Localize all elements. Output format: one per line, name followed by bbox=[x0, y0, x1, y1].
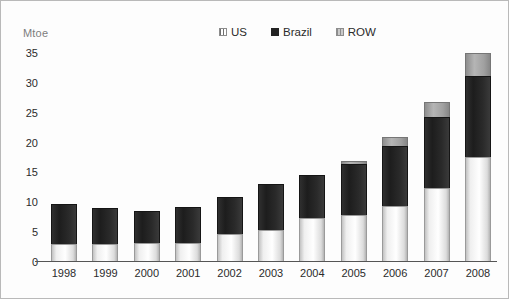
x-axis-baseline bbox=[35, 261, 497, 262]
y-tick-label: 0 bbox=[32, 256, 38, 268]
bar-segment-brazil bbox=[465, 76, 491, 156]
x-tick-label: 2005 bbox=[341, 267, 367, 279]
y-tick-label: 35 bbox=[26, 47, 38, 59]
legend-label-row: ROW bbox=[348, 26, 376, 38]
bar-group[interactable] bbox=[299, 53, 325, 261]
bar-segment-us bbox=[258, 230, 284, 261]
bar-segment-us bbox=[217, 234, 243, 261]
x-tick-label: 2002 bbox=[217, 267, 243, 279]
x-tick-label: 2006 bbox=[382, 267, 408, 279]
bar-segment-us bbox=[341, 215, 367, 261]
x-tick-label: 2004 bbox=[299, 267, 325, 279]
bar-segment-row bbox=[382, 137, 408, 146]
bar-segment-brazil bbox=[51, 204, 77, 244]
bar-segment-us bbox=[382, 206, 408, 261]
bar-segment-brazil bbox=[424, 117, 450, 188]
y-tick-label: 25 bbox=[26, 107, 38, 119]
bar-segment-us bbox=[465, 157, 491, 261]
y-tick-label: 30 bbox=[26, 77, 38, 89]
bar-segment-brazil bbox=[217, 197, 243, 234]
chart-legend: US Brazil ROW bbox=[219, 26, 376, 38]
bar-group[interactable] bbox=[465, 53, 491, 261]
bar-group[interactable] bbox=[217, 53, 243, 261]
bar-group[interactable] bbox=[341, 53, 367, 261]
chart-figure: Mtoe US Brazil ROW 35302520151050 199819… bbox=[0, 0, 509, 299]
us-hatch-swatch bbox=[219, 28, 227, 36]
y-tick-label: 20 bbox=[26, 137, 38, 149]
bar-group[interactable] bbox=[134, 53, 160, 261]
bar-group[interactable] bbox=[51, 53, 77, 261]
bar-segment-us bbox=[424, 188, 450, 261]
y-tick-label: 10 bbox=[26, 196, 38, 208]
bar-group[interactable] bbox=[424, 53, 450, 261]
legend-item-brazil[interactable]: Brazil bbox=[271, 26, 312, 38]
bar-series-container bbox=[45, 53, 497, 261]
bar-segment-us bbox=[92, 244, 118, 261]
brazil-solid-swatch bbox=[271, 28, 279, 36]
legend-item-row[interactable]: ROW bbox=[336, 26, 376, 38]
legend-label-brazil: Brazil bbox=[283, 26, 312, 38]
legend-label-us: US bbox=[231, 26, 247, 38]
bar-segment-row bbox=[465, 53, 491, 76]
bar-segment-brazil bbox=[341, 164, 367, 215]
bar-segment-us bbox=[51, 244, 77, 261]
bar-segment-brazil bbox=[299, 175, 325, 217]
legend-item-us[interactable]: US bbox=[219, 26, 247, 38]
x-tick-label: 2003 bbox=[258, 267, 284, 279]
row-gray-swatch bbox=[336, 28, 344, 36]
bar-segment-us bbox=[299, 218, 325, 261]
y-tick-label: 15 bbox=[26, 166, 38, 178]
x-tick-label: 1998 bbox=[51, 267, 77, 279]
bar-segment-brazil bbox=[175, 207, 201, 243]
bar-segment-brazil bbox=[92, 208, 118, 244]
plot-area: 35302520151050 bbox=[45, 53, 497, 262]
bar-group[interactable] bbox=[92, 53, 118, 261]
x-axis-ticks: 1998199920002001200220032004200520062007… bbox=[45, 267, 497, 279]
x-tick-label: 2001 bbox=[175, 267, 201, 279]
bar-segment-brazil bbox=[134, 211, 160, 242]
x-tick-label: 2008 bbox=[465, 267, 491, 279]
bar-group[interactable] bbox=[175, 53, 201, 261]
bar-segment-us bbox=[134, 243, 160, 261]
bar-segment-us bbox=[175, 243, 201, 261]
bar-segment-row bbox=[424, 102, 450, 116]
bar-segment-brazil bbox=[382, 146, 408, 205]
y-axis-unit-label: Mtoe bbox=[23, 27, 48, 39]
x-tick-label: 2007 bbox=[424, 267, 450, 279]
x-tick-label: 2000 bbox=[134, 267, 160, 279]
y-tick-label: 5 bbox=[32, 226, 38, 238]
x-tick-label: 1999 bbox=[92, 267, 118, 279]
bar-group[interactable] bbox=[258, 53, 284, 261]
bar-segment-brazil bbox=[258, 184, 284, 230]
bar-group[interactable] bbox=[382, 53, 408, 261]
